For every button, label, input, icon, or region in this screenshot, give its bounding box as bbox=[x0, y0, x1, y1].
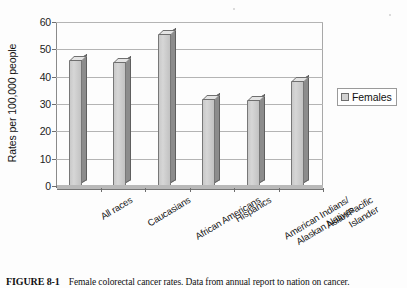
x-tick-mark bbox=[145, 188, 146, 192]
bar-front-face bbox=[158, 34, 171, 186]
bar[interactable] bbox=[158, 34, 171, 186]
y-tick-mark bbox=[52, 159, 56, 160]
y-tick-label: 40 bbox=[40, 71, 51, 83]
figure-caption-number: FIGURE 8-1 bbox=[6, 276, 60, 287]
gridline bbox=[56, 22, 323, 23]
y-tick-mark bbox=[52, 49, 56, 50]
scan-speck bbox=[389, 14, 391, 16]
bar-front-face bbox=[69, 60, 82, 186]
x-axis-labels: All racesCaucasiansAfrican AmericansHisp… bbox=[56, 188, 346, 264]
x-tick-mark bbox=[190, 188, 191, 192]
x-tick-mark bbox=[234, 188, 235, 192]
gridline bbox=[56, 49, 323, 50]
legend-swatch-icon bbox=[341, 93, 349, 101]
x-tick-mark bbox=[279, 188, 280, 192]
bar[interactable] bbox=[291, 81, 304, 186]
y-axis-title: Rates per 100,000 people bbox=[6, 28, 20, 178]
bar-front-face bbox=[247, 100, 260, 186]
legend-item-label: Females bbox=[352, 91, 392, 103]
gridline bbox=[56, 104, 323, 105]
x-tick-mark bbox=[323, 188, 324, 192]
x-tick-label: All races bbox=[99, 195, 134, 222]
y-tick-label: 0 bbox=[45, 180, 51, 192]
x-tick-label: Caucasians bbox=[146, 195, 193, 229]
y-tick-mark bbox=[52, 186, 56, 187]
bar-front-face bbox=[291, 81, 304, 186]
y-tick-label: 10 bbox=[40, 153, 51, 165]
bar-front-face bbox=[113, 62, 126, 186]
y-tick-mark bbox=[52, 77, 56, 78]
scan-speck bbox=[233, 8, 235, 10]
gridline bbox=[56, 131, 323, 132]
chart-legend[interactable]: Females bbox=[337, 88, 397, 106]
gridline bbox=[56, 77, 323, 78]
bar[interactable] bbox=[113, 62, 126, 186]
y-tick-label: 60 bbox=[40, 16, 51, 28]
x-tick-mark bbox=[101, 188, 102, 192]
bar[interactable] bbox=[247, 100, 260, 186]
y-tick-mark bbox=[52, 104, 56, 105]
bar-side-face bbox=[171, 28, 176, 183]
bar-side-face bbox=[215, 92, 220, 183]
bar-side-face bbox=[304, 75, 309, 183]
y-tick-label: 30 bbox=[40, 98, 51, 110]
y-tick-label: 50 bbox=[40, 43, 51, 55]
y-tick-mark bbox=[52, 22, 56, 23]
bar[interactable] bbox=[202, 99, 215, 186]
y-tick-label: 20 bbox=[40, 125, 51, 137]
bar-side-face bbox=[260, 94, 265, 183]
figure-caption-text: Female colorectal cancer rates. Data fro… bbox=[69, 277, 350, 287]
y-tick-mark bbox=[52, 131, 56, 132]
chart-plot-area: 0102030405060 bbox=[56, 22, 323, 186]
figure-caption: FIGURE 8-1Female colorectal cancer rates… bbox=[6, 276, 406, 288]
bar-front-face bbox=[202, 99, 215, 186]
figure-container: Rates per 100,000 people 0102030405060 A… bbox=[0, 0, 407, 288]
bar[interactable] bbox=[69, 60, 82, 186]
gridline bbox=[56, 159, 323, 160]
bar-side-face bbox=[126, 56, 131, 183]
bar-side-face bbox=[82, 54, 87, 183]
